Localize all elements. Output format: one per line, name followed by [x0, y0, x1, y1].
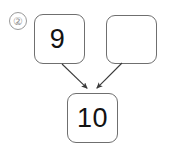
- number-box-addend-2-blank[interactable]: [106, 15, 157, 64]
- arrow-addend-2-to-sum: [97, 63, 122, 88]
- number-box-sum-value: 10: [77, 105, 108, 132]
- arrow-addend-1-to-sum: [62, 64, 87, 88]
- number-bond-worksheet-item: ② 9 10: [0, 0, 170, 160]
- number-box-sum[interactable]: 10: [67, 93, 118, 143]
- number-box-addend-1-value: 9: [50, 26, 66, 53]
- circled-number-icon: ②: [9, 12, 27, 30]
- number-box-addend-1[interactable]: 9: [34, 14, 85, 64]
